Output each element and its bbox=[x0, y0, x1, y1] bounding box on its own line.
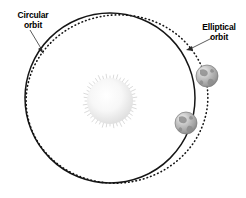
circular-orbit-label-line1: Circular bbox=[18, 10, 50, 20]
planet-upper bbox=[196, 65, 218, 87]
circular-orbit-label-line2: orbit bbox=[24, 20, 42, 30]
planet-lower bbox=[175, 112, 197, 134]
sun-ray bbox=[106, 123, 107, 127]
sun-disk bbox=[87, 78, 133, 124]
sun-ray bbox=[113, 75, 114, 79]
sun-ray bbox=[84, 97, 88, 98]
elliptical-orbit-label-line1: Elliptical bbox=[202, 22, 235, 32]
elliptical-orbit-label-line2: orbit bbox=[210, 32, 228, 42]
orbit-diagram: Circular orbit Elliptical orbit bbox=[0, 0, 246, 198]
sun-ray bbox=[132, 104, 136, 105]
